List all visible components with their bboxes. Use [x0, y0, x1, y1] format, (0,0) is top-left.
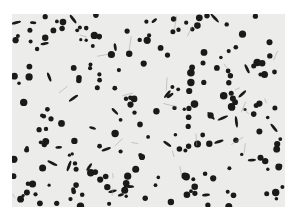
micrograph-image [12, 14, 285, 207]
nodule-field [12, 14, 285, 207]
